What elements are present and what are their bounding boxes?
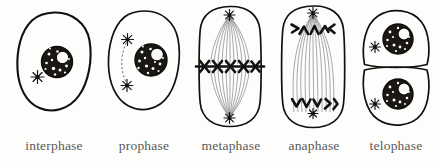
phase-label-metaphase: metaphase (186, 136, 276, 156)
centrosome-star-lower (224, 113, 235, 124)
phase-label-telophase: telophase (352, 136, 440, 156)
nucleus-upper (383, 24, 413, 54)
nucleus (135, 44, 167, 76)
phase-label-interphase: interphase (6, 136, 102, 156)
phase-panel-prophase (100, 0, 188, 136)
telophase-cell-drawing (352, 0, 438, 136)
spindle-fibers-upper (211, 16, 250, 64)
phase-panel-telophase (352, 0, 438, 136)
nucleus-lower (383, 79, 413, 109)
phase-panel-interphase (8, 0, 100, 136)
centrosome-star-upper (122, 34, 134, 46)
centrosome-star-lower (308, 109, 318, 119)
phase-label-anaphase: anaphase (272, 136, 356, 156)
nucleus (42, 47, 73, 78)
interphase-cell-drawing (8, 0, 100, 136)
centrosome-star-upper (224, 10, 235, 21)
centrosome-star-lower (121, 80, 133, 92)
anaphase-cell-drawing (270, 0, 356, 136)
phase-panel-metaphase (188, 0, 272, 136)
prophase-cell-drawing (100, 0, 188, 136)
spindle-fibers-lower (211, 69, 250, 117)
centrosome-star-lower (370, 99, 381, 110)
mitosis-figure: interphase prophase metaphase anaphase t… (0, 0, 440, 168)
spindle-arc (122, 43, 127, 83)
phase-panel-anaphase (270, 0, 356, 136)
phase-label-row: interphase prophase metaphase anaphase t… (0, 136, 440, 168)
phase-label-prophase: prophase (98, 136, 190, 156)
centrosome-star (31, 71, 44, 84)
metaphase-cell-drawing (188, 0, 272, 136)
centrosome-star-upper (370, 42, 381, 53)
centrosome-star-upper (308, 8, 319, 19)
chromatids-lower-pole (292, 99, 338, 109)
